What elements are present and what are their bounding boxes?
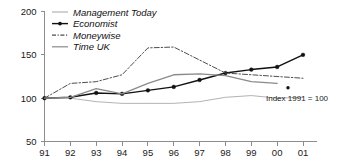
data-point-economist-00 <box>275 65 279 69</box>
line-chart: 20015010050 9192939495969798990001 Manag… <box>0 0 345 163</box>
series-line-moneywise <box>45 47 304 98</box>
x-axis-label-01: 01 <box>298 147 309 158</box>
chart-annotation: Index 1991 = 100 <box>266 94 329 103</box>
chart-legend: Management TodayEconomistMoneywiseTime U… <box>52 7 158 53</box>
x-axis-tick-labels: 9192939495969798990001 <box>39 147 308 158</box>
data-point-economist-96 <box>172 85 176 89</box>
series-line-time-uk <box>45 74 278 98</box>
x-axis-label-98: 98 <box>220 147 231 158</box>
data-point-economist-01 <box>301 53 305 57</box>
x-axis-label-92: 92 <box>65 147 76 158</box>
data-point-economist-93 <box>94 91 98 95</box>
x-axis-label-94: 94 <box>117 147 128 158</box>
y-axis-label-150: 150 <box>21 49 37 60</box>
x-axis-label-96: 96 <box>168 147 179 158</box>
series-line-management-today <box>45 96 304 104</box>
data-point-economist-97 <box>198 78 202 82</box>
x-axis-label-91: 91 <box>39 147 50 158</box>
y-axis-label-100: 100 <box>21 93 37 104</box>
legend-label-time-uk: Time UK <box>73 41 111 52</box>
series-line-economist <box>45 55 304 98</box>
stray-data-marker <box>286 86 289 89</box>
y-axis-label-200: 200 <box>21 6 37 17</box>
index-annotation-text: Index 1991 = 100 <box>266 94 329 103</box>
data-point-economist-99 <box>249 68 253 72</box>
legend-label-moneywise: Moneywise <box>73 30 121 41</box>
x-axis-label-00: 00 <box>272 147 283 158</box>
chart-container: 20015010050 9192939495969798990001 Manag… <box>0 0 345 163</box>
x-axis-label-97: 97 <box>194 147 205 158</box>
x-axis-label-95: 95 <box>143 147 154 158</box>
y-axis-label-50: 50 <box>26 136 37 147</box>
x-axis-label-99: 99 <box>246 147 257 158</box>
legend-label-economist: Economist <box>73 18 118 29</box>
x-axis-label-93: 93 <box>91 147 102 158</box>
data-point-economist-95 <box>146 88 150 92</box>
y-axis-tick-labels: 20015010050 <box>21 6 37 147</box>
legend-marker-dot <box>58 22 62 26</box>
legend-label-management-today: Management Today <box>73 7 158 18</box>
